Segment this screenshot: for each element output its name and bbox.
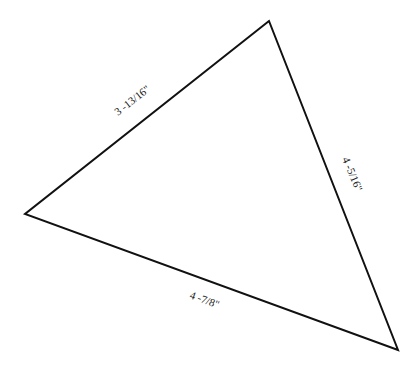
side-label-bottom: 4 -7/8" <box>188 289 221 311</box>
side-label-left-top: 3 -13/16" <box>112 83 152 118</box>
side-label-top-right: 4 -5/16" <box>340 155 365 193</box>
triangle-diagram: 3 -13/16" 4 -5/16" 4 -7/8" <box>0 0 418 368</box>
